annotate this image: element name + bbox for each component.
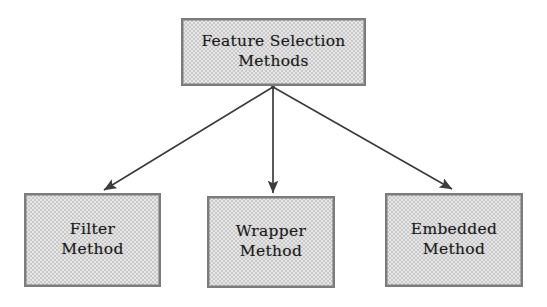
node-embedded-method: Embedded Method [385, 193, 523, 287]
connector-root-to-embedded [273, 87, 452, 189]
node-label: Wrapper Method [232, 222, 310, 261]
node-feature-selection-methods: Feature Selection Methods [181, 18, 366, 86]
node-filter-method: Filter Method [24, 193, 161, 287]
node-label: Feature Selection Methods [197, 32, 349, 71]
node-wrapper-method: Wrapper Method [207, 196, 335, 288]
node-label: Filter Method [57, 220, 127, 259]
connector-root-to-filter [104, 87, 273, 190]
node-label: Embedded Method [407, 220, 501, 259]
feature-selection-diagram: Feature Selection Methods Filter Method … [0, 0, 547, 307]
